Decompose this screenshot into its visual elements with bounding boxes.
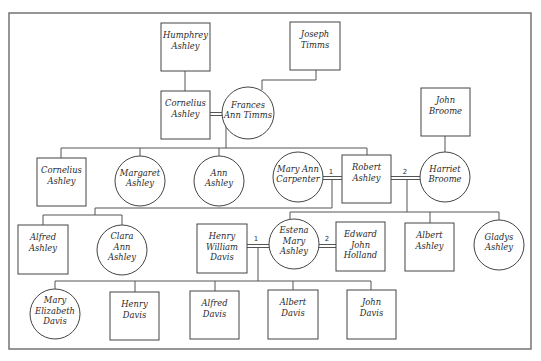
marriage-link: 2 — [319, 235, 336, 248]
family-tree-diagram: 1212 HumphreyAshleyJosephTimmsCorneliusA… — [0, 0, 541, 361]
name-line: Mary Ann — [276, 164, 319, 174]
name-line: Harriet — [428, 164, 461, 174]
name-line: Margaret — [119, 168, 161, 178]
name-line: Mary — [43, 295, 67, 305]
person-name: AlbertAshley — [414, 230, 443, 251]
name-line: Davis — [202, 309, 227, 319]
person-name: RobertAshley — [351, 162, 382, 183]
marriage-number: 1 — [329, 168, 333, 176]
person-name: EstenaMaryAshley — [278, 225, 308, 256]
name-line: Carpenter — [276, 174, 320, 184]
person-albert-ashley[interactable]: AlbertAshley — [405, 223, 454, 271]
name-line: John — [434, 95, 455, 105]
name-line: Ashley — [351, 173, 380, 183]
marriage-number: 2 — [325, 235, 329, 243]
name-line: Ashley — [46, 176, 75, 186]
name-line: Elizabeth — [34, 306, 75, 316]
name-line: Robert — [351, 162, 382, 172]
name-line: Ashley — [484, 242, 513, 252]
name-line: Edward — [343, 229, 378, 239]
name-line: Henry — [120, 299, 148, 309]
name-line: Ann — [210, 168, 228, 178]
person-name: JohnDavis — [359, 297, 384, 318]
name-line: Alfred — [29, 232, 57, 242]
person-frances[interactable]: FrancesAnn Timms — [222, 87, 274, 139]
name-line: Mary — [282, 236, 306, 246]
person-name: GladysAshley — [484, 232, 514, 253]
marriage-number: 1 — [254, 235, 258, 243]
person-cornelius-jr[interactable]: CorneliusAshley — [37, 158, 86, 206]
person-name: AlfredDavis — [200, 298, 228, 319]
name-line: Ann Timms — [223, 110, 273, 120]
person-estena[interactable]: EstenaMaryAshley — [269, 219, 319, 269]
name-line: John — [349, 240, 370, 250]
name-line: Albert — [279, 297, 307, 307]
person-name: HarrietBroome — [427, 164, 461, 185]
marriage-link: 2 — [391, 168, 420, 180]
person-mary-elizabeth[interactable]: MaryElizabethDavis — [30, 289, 80, 339]
name-line: Davis — [359, 308, 384, 318]
name-line: Cornelius — [41, 165, 83, 175]
marriage-link: 1 — [247, 235, 269, 248]
name-line: Ashley — [170, 109, 199, 119]
person-henry-davis[interactable]: HenryDavis — [110, 292, 159, 340]
name-line: Frances — [230, 100, 266, 110]
person-clara[interactable]: ClaraAnnAshley — [97, 225, 147, 275]
name-line: Davis — [209, 252, 234, 262]
name-line: Joseph — [299, 29, 329, 39]
person-edward[interactable]: EdwardJohnHolland — [336, 222, 385, 271]
marriage-number: 2 — [403, 168, 407, 176]
name-line: Broome — [428, 106, 462, 116]
name-line: Ashley — [170, 41, 199, 51]
name-line: Ashley — [125, 178, 154, 188]
person-joseph[interactable]: JosephTimms — [290, 22, 340, 70]
name-line: Davis — [122, 310, 147, 320]
name-line: Ashley — [279, 246, 308, 256]
person-name: HenryWilliamDavis — [206, 231, 238, 262]
person-ann[interactable]: AnnAshley — [194, 156, 244, 206]
person-alfred-davis[interactable]: AlfredDavis — [190, 291, 239, 339]
person-robert[interactable]: RobertAshley — [342, 155, 391, 203]
name-line: Ann — [113, 242, 131, 252]
person-alfred-ashley[interactable]: AlfredAshley — [18, 225, 68, 274]
name-line: Henry — [208, 231, 236, 241]
name-line: Davis — [42, 316, 67, 326]
marriage-link: 1 — [323, 168, 342, 180]
name-line: William — [206, 242, 238, 252]
connector-line — [262, 70, 316, 90]
person-cornelius-sr[interactable]: CorneliusAshley — [161, 91, 210, 139]
name-line: John — [360, 297, 381, 307]
name-line: Alfred — [200, 298, 228, 308]
name-line: Davis — [280, 308, 305, 318]
person-margaret[interactable]: MargaretAshley — [115, 156, 165, 206]
name-line: Albert — [415, 230, 443, 240]
name-line: Ashley — [107, 252, 136, 262]
marriage-link — [210, 113, 222, 116]
person-name: HenryDavis — [120, 299, 148, 320]
person-john-davis[interactable]: JohnDavis — [347, 290, 396, 339]
person-mary-ann[interactable]: Mary AnnCarpenter — [273, 152, 323, 202]
person-harriet[interactable]: HarrietBroome — [420, 152, 470, 202]
name-line: Ashley — [28, 243, 57, 253]
person-name: AlfredAshley — [28, 232, 57, 253]
person-john-broome[interactable]: JohnBroome — [421, 88, 470, 136]
person-albert-davis[interactable]: AlbertDavis — [268, 290, 318, 339]
person-name: AlbertDavis — [279, 297, 307, 318]
name-line: Timms — [301, 40, 330, 50]
person-name: JosephTimms — [299, 29, 330, 50]
person-gladys[interactable]: GladysAshley — [474, 220, 524, 270]
name-line: Estena — [278, 225, 308, 235]
name-line: Cornelius — [165, 98, 207, 108]
people-nodes: HumphreyAshleyJosephTimmsCorneliusAshley… — [18, 22, 524, 340]
person-henry-wd[interactable]: HenryWilliamDavis — [197, 224, 247, 273]
name-line: Broome — [427, 174, 461, 184]
person-humphrey[interactable]: HumphreyAshley — [161, 23, 210, 71]
name-line: Clara — [110, 231, 133, 241]
name-line: Ashley — [204, 178, 233, 188]
name-line: Humphrey — [162, 30, 208, 40]
person-name: Mary AnnCarpenter — [276, 164, 321, 185]
name-line: Ashley — [414, 241, 443, 251]
name-line: Gladys — [485, 232, 514, 242]
name-line: Holland — [343, 250, 378, 260]
